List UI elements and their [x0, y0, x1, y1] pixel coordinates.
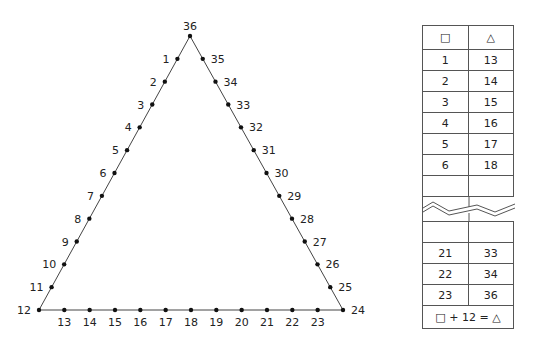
point-dot	[264, 171, 268, 175]
point-dot	[112, 171, 116, 175]
point-dot	[62, 262, 66, 266]
point-dot	[75, 239, 79, 243]
point-label: 6	[100, 167, 107, 180]
point-dot	[87, 216, 91, 220]
point-label: 1	[162, 53, 169, 66]
table-break-row	[423, 197, 514, 222]
point-dot	[214, 308, 218, 312]
point-dot	[252, 148, 256, 152]
table-header-row: □ △	[423, 26, 514, 50]
triangle-cell: 16	[468, 113, 514, 134]
table-row: 618	[423, 155, 514, 176]
point-dot	[290, 308, 294, 312]
rule-formula: □ + 12 = △	[423, 306, 514, 329]
point-label: 20	[235, 316, 249, 329]
point-label: 19	[209, 316, 223, 329]
point-label: 24	[351, 304, 365, 317]
table-row-blank	[423, 176, 514, 197]
point-label: 28	[300, 213, 314, 226]
point-dot	[201, 57, 205, 61]
point-dot	[175, 57, 179, 61]
point-label: 16	[133, 316, 147, 329]
point-label: 36	[183, 20, 197, 33]
triangle-cell: 34	[468, 264, 514, 285]
point-label: 21	[260, 316, 274, 329]
table-row: 2133	[423, 243, 514, 264]
point-label: 22	[285, 316, 299, 329]
blank-cell	[468, 176, 514, 197]
point-dot	[49, 285, 53, 289]
point-label: 9	[62, 236, 69, 249]
triangle-outline	[39, 36, 343, 310]
triangle-cell: 17	[468, 134, 514, 155]
square-cell: 2	[423, 71, 469, 92]
blank-cell	[423, 222, 469, 243]
point-dot	[315, 262, 319, 266]
table-row: 315	[423, 92, 514, 113]
table-row: 517	[423, 134, 514, 155]
zigzag-break-icon	[423, 197, 515, 221]
point-dot	[163, 79, 167, 83]
table-row: 214	[423, 71, 514, 92]
point-dot	[138, 308, 142, 312]
point-dot	[113, 308, 117, 312]
point-label: 30	[275, 167, 289, 180]
blank-cell	[423, 176, 469, 197]
point-dot	[315, 308, 319, 312]
point-dot	[100, 194, 104, 198]
triangle-cell: 15	[468, 92, 514, 113]
point-label: 25	[338, 281, 352, 294]
point-dot	[163, 308, 167, 312]
point-label: 23	[311, 316, 325, 329]
point-dot	[188, 34, 192, 38]
square-cell: 1	[423, 50, 469, 71]
table-row: 113	[423, 50, 514, 71]
point-dot	[62, 308, 66, 312]
point-dot	[303, 239, 307, 243]
point-label: 4	[125, 121, 132, 134]
point-label: 7	[87, 190, 94, 203]
point-label: 5	[112, 144, 119, 157]
point-dot	[290, 216, 294, 220]
point-label: 31	[262, 144, 276, 157]
point-dot	[341, 308, 345, 312]
point-dot	[239, 125, 243, 129]
table-row: 2336	[423, 285, 514, 306]
blank-cell	[468, 222, 514, 243]
point-dot	[328, 285, 332, 289]
point-label: 33	[236, 99, 250, 112]
table-row: 416	[423, 113, 514, 134]
point-label: 29	[287, 190, 301, 203]
triangle-cell: 36	[468, 285, 514, 306]
triangle-cell: 13	[468, 50, 514, 71]
table-row-blank	[423, 222, 514, 243]
point-label: 11	[30, 281, 44, 294]
square-cell: 5	[423, 134, 469, 155]
point-label: 26	[326, 258, 340, 271]
point-label: 14	[83, 316, 97, 329]
point-label: 18	[184, 316, 198, 329]
point-label: 17	[159, 316, 173, 329]
point-dot	[277, 194, 281, 198]
point-dot	[37, 308, 41, 312]
point-label: 8	[74, 213, 81, 226]
point-dot	[239, 308, 243, 312]
input-output-table: □ △ 113 214 315 416 517 618 2133 2234 23…	[422, 25, 514, 329]
point-label: 10	[42, 258, 56, 271]
point-label: 32	[249, 121, 263, 134]
point-dot	[150, 102, 154, 106]
point-label: 27	[313, 236, 327, 249]
triangle-column-header: △	[468, 26, 514, 50]
square-cell: 4	[423, 113, 469, 134]
square-cell: 21	[423, 243, 469, 264]
point-label: 3	[137, 99, 144, 112]
point-dot	[213, 79, 217, 83]
triangle-cell: 14	[468, 71, 514, 92]
table-row: 2234	[423, 264, 514, 285]
square-cell: 22	[423, 264, 469, 285]
triangle-cell: 33	[468, 243, 514, 264]
point-label: 13	[57, 316, 71, 329]
table-rule-row: □ + 12 = △	[423, 306, 514, 329]
point-label: 2	[150, 76, 157, 89]
point-label: 15	[108, 316, 122, 329]
